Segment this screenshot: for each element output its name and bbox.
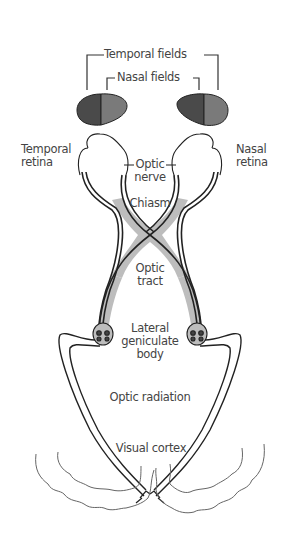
label-temporal-fields: Temporal fields	[104, 48, 187, 61]
label-optic-nerve: Optic nerve	[130, 158, 170, 184]
label-nasal-retina: Nasal retina	[236, 143, 268, 169]
label-nasal-retina-line2: retina	[236, 156, 268, 169]
left-visual-field	[77, 94, 127, 125]
label-optic-nerve-line2: nerve	[130, 171, 170, 184]
label-nasal-fields: Nasal fields	[117, 71, 180, 84]
label-optic-radiation: Optic radiation	[95, 391, 205, 404]
left-eye	[78, 134, 128, 175]
label-lgb-line3: body	[115, 348, 185, 361]
label-chiasm: Chiasm	[125, 197, 175, 210]
right-eye	[172, 134, 222, 175]
label-visual-cortex: Visual cortex	[110, 442, 192, 455]
label-lateral-geniculate-body: Lateral geniculate body	[115, 322, 185, 361]
right-visual-field	[177, 94, 228, 126]
left-lgb	[93, 323, 113, 345]
label-temporal-retina-line2: retina	[21, 156, 71, 169]
right-lgb	[187, 323, 207, 345]
label-temporal-retina: Temporal retina	[21, 143, 71, 169]
label-optic-tract: Optic tract	[125, 262, 175, 288]
label-optic-tract-line2: tract	[125, 275, 175, 288]
